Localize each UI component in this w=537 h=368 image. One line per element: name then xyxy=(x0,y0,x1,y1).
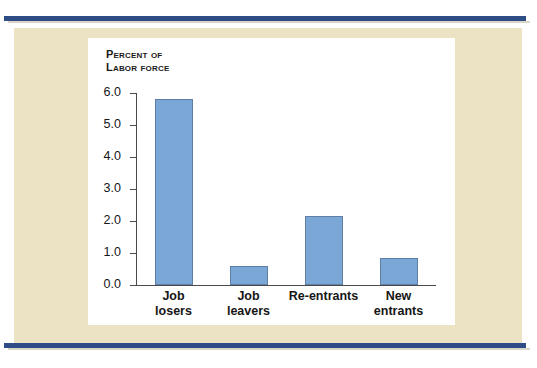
category-label: Newentrants xyxy=(356,289,442,319)
figure-page: Percent of Labor force 6.05.04.03.02.01.… xyxy=(0,0,537,368)
y-axis-title: Percent of Labor force xyxy=(106,48,170,74)
category-label: Jobleavers xyxy=(206,289,292,319)
bar-re-entrants xyxy=(305,216,343,285)
y-tick-label: 3.0 xyxy=(104,181,121,195)
bar-new-entrants xyxy=(380,258,418,285)
y-tick-label: 1.0 xyxy=(104,245,121,259)
bottom-rule-shadow xyxy=(8,348,530,350)
category-label-line: Re-entrants xyxy=(281,289,367,304)
top-rule xyxy=(4,16,526,21)
plot-area: 6.05.04.03.02.01.00.0 JoblosersJobleaver… xyxy=(136,93,436,285)
category-label-line: New xyxy=(356,289,442,304)
bar-job-leavers xyxy=(230,266,268,285)
y-tick-label: 6.0 xyxy=(104,85,121,99)
category-label-line: losers xyxy=(131,304,217,319)
top-rule-shadow xyxy=(8,21,530,23)
category-label-line: entrants xyxy=(356,304,442,319)
y-axis-title-line1: Percent of xyxy=(106,48,170,61)
y-tick-label: 4.0 xyxy=(104,149,121,163)
y-tick-label: 5.0 xyxy=(104,117,121,131)
bar-series xyxy=(136,93,436,285)
category-label: Joblosers xyxy=(131,289,217,319)
category-label-line: Job xyxy=(206,289,292,304)
bar-job-losers xyxy=(155,99,193,285)
y-tick: 0.0 xyxy=(130,285,136,286)
y-tick-label: 2.0 xyxy=(104,213,121,227)
y-axis-title-line2: Labor force xyxy=(106,61,170,74)
y-tick-label: 0.0 xyxy=(104,277,121,291)
category-label-line: leavers xyxy=(206,304,292,319)
x-axis-category-labels: JoblosersJobleaversRe-entrantsNewentrant… xyxy=(136,289,436,329)
category-label-line: Job xyxy=(131,289,217,304)
chart-panel: Percent of Labor force 6.05.04.03.02.01.… xyxy=(88,38,455,325)
category-label: Re-entrants xyxy=(281,289,367,304)
x-axis-line xyxy=(136,285,436,286)
bottom-rule xyxy=(4,343,526,348)
